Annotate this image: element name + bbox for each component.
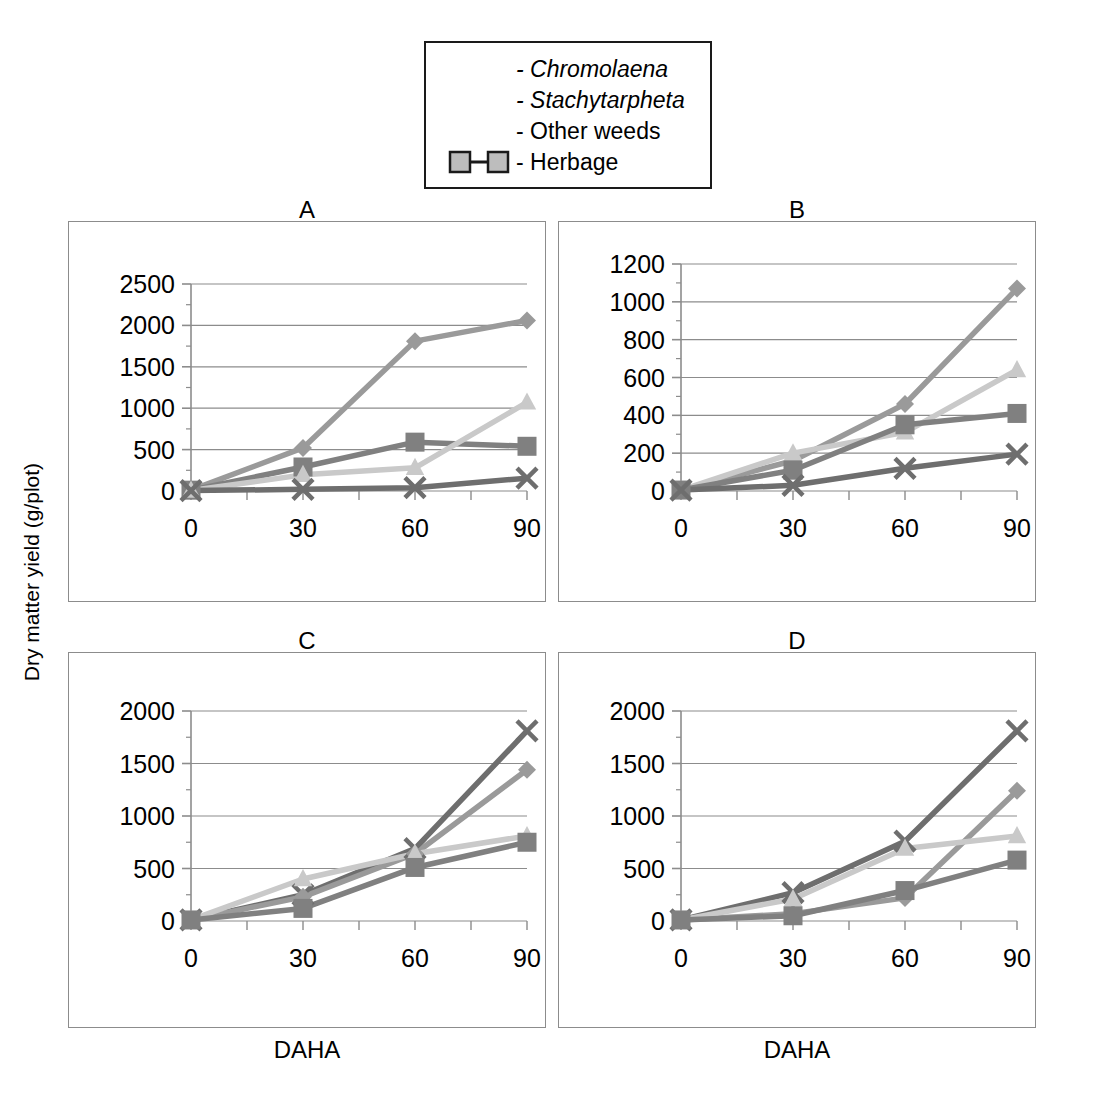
square-marker — [784, 906, 803, 925]
chart-panel-c: 05001000150020000306090 — [68, 652, 546, 1028]
series-layer — [181, 311, 537, 500]
legend: - Chromolaena- Stachytarpheta- Other wee… — [424, 41, 712, 189]
square-marker — [518, 833, 537, 852]
series-line-stachytarpheta — [191, 731, 527, 920]
chart-svg-d: 05001000150020000306090 — [559, 653, 1035, 1027]
diamond-marker — [518, 311, 536, 329]
x-tick-labels: 0306090 — [184, 944, 541, 972]
legend-symbol-square — [444, 149, 516, 175]
series-layer — [671, 721, 1027, 930]
x-tick-label: 0 — [184, 944, 198, 972]
square-marker — [406, 433, 425, 452]
legend-label: - Herbage — [516, 149, 618, 175]
x-tick-labels: 0306090 — [674, 514, 1031, 542]
y-axis-title: Dry matter yield (g/plot) — [20, 422, 44, 722]
square-marker — [1008, 851, 1027, 870]
square-marker — [1008, 404, 1027, 423]
legend-rows: - Chromolaena- Stachytarpheta- Other wee… — [426, 54, 710, 177]
square-marker — [672, 910, 691, 929]
panel-title-b: B — [558, 196, 1036, 224]
square-marker — [896, 881, 915, 900]
legend-symbol-x — [444, 87, 516, 113]
legend-symbol-diamond — [444, 56, 516, 82]
y-tick-label: 500 — [133, 436, 175, 464]
series-layer — [181, 721, 537, 930]
panel-title-c: C — [68, 627, 546, 655]
triangle-marker — [1008, 360, 1026, 377]
x-tick-label: 60 — [891, 944, 919, 972]
square-marker — [294, 899, 313, 918]
square-marker — [182, 910, 201, 929]
x-tick-labels: 0306090 — [184, 514, 541, 542]
x-tick-label: 90 — [1003, 944, 1031, 972]
x-tick-label: 60 — [401, 514, 429, 542]
x-marker — [1007, 721, 1027, 741]
y-tick-label: 1000 — [119, 802, 175, 830]
x-tick-label: 30 — [779, 944, 807, 972]
x-tick-label: 90 — [513, 514, 541, 542]
x-axis-title-d: DAHA — [558, 1036, 1036, 1064]
y-tick-label: 1500 — [119, 353, 175, 381]
x-tick-label: 0 — [674, 514, 688, 542]
x-tick-label: 90 — [1003, 514, 1031, 542]
gridlines — [681, 264, 1017, 491]
legend-label: - Stachytarpheta — [516, 87, 685, 113]
axes — [182, 711, 527, 930]
y-tick-label: 1000 — [609, 288, 665, 316]
y-tick-label: 200 — [623, 439, 665, 467]
x-tick-label: 0 — [674, 944, 688, 972]
y-tick-label: 2500 — [119, 270, 175, 298]
y-tick-label: 600 — [623, 364, 665, 392]
square-marker — [896, 415, 915, 434]
legend-item-stachytarpheta: - Stachytarpheta — [426, 85, 710, 115]
legend-label: - Chromolaena — [516, 56, 668, 82]
y-tick-labels: 0500100015002000 — [609, 697, 665, 935]
x-tick-label: 0 — [184, 514, 198, 542]
x-tick-label: 30 — [289, 514, 317, 542]
x-tick-label: 30 — [289, 944, 317, 972]
x-axis-title-c: DAHA — [68, 1036, 546, 1064]
panel-title-d: D — [558, 627, 1036, 655]
series-line-stachytarpheta — [681, 731, 1017, 920]
y-tick-label: 0 — [651, 907, 665, 935]
y-tick-labels: 0500100015002000 — [119, 697, 175, 935]
legend-symbol-triangle — [444, 118, 516, 144]
y-tick-labels: 020040060080010001200 — [609, 250, 665, 505]
y-tick-label: 1200 — [609, 250, 665, 278]
chart-panel-d: 05001000150020000306090 — [558, 652, 1036, 1028]
series-layer — [671, 280, 1027, 500]
legend-label: - Other weeds — [516, 118, 660, 144]
y-tick-label: 800 — [623, 326, 665, 354]
y-tick-label: 500 — [133, 855, 175, 883]
y-tick-labels: 05001000150020002500 — [119, 270, 175, 505]
y-tick-label: 1000 — [609, 802, 665, 830]
legend-item-herbage: - Herbage — [426, 147, 710, 177]
chart-panel-a: 050010001500200025000306090 — [68, 221, 546, 602]
y-tick-label: 400 — [623, 401, 665, 429]
legend-item-chromolaena: - Chromolaena — [426, 54, 710, 84]
y-tick-label: 0 — [161, 477, 175, 505]
x-tick-label: 30 — [779, 514, 807, 542]
chart-svg-b: 0200400600800100012000306090 — [559, 222, 1035, 601]
y-tick-label: 1500 — [119, 750, 175, 778]
gridlines — [681, 711, 1017, 921]
triangle-marker — [518, 392, 536, 409]
x-tick-label: 90 — [513, 944, 541, 972]
x-marker — [517, 721, 537, 741]
chart-svg-a: 050010001500200025000306090 — [69, 222, 545, 601]
chart-svg-c: 05001000150020000306090 — [69, 653, 545, 1027]
gridlines — [191, 284, 527, 491]
y-tick-label: 500 — [623, 855, 665, 883]
square-marker — [518, 437, 537, 456]
x-tick-label: 60 — [891, 514, 919, 542]
y-tick-label: 1500 — [609, 750, 665, 778]
series-line-chromolaena — [191, 320, 527, 490]
y-tick-label: 0 — [651, 477, 665, 505]
chart-panel-b: 0200400600800100012000306090 — [558, 221, 1036, 602]
legend-item-other-weeds: - Other weeds — [426, 116, 710, 146]
axes — [182, 284, 527, 500]
y-tick-label: 2000 — [119, 311, 175, 339]
panel-title-a: A — [68, 196, 546, 224]
axes — [672, 264, 1017, 500]
y-tick-label: 2000 — [119, 697, 175, 725]
